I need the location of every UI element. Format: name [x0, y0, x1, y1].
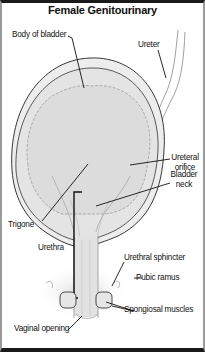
label-ureteral-orifice-line1: Ureteral: [170, 153, 200, 163]
label-spongiosal-muscles: Spongiosal muscles: [124, 305, 193, 315]
label-ureter: Ureter: [138, 40, 160, 50]
label-vaginal-opening: Vaginal opening: [14, 324, 69, 334]
label-urethra: Urethra: [38, 243, 64, 253]
label-bladder-neck-line1: Bladder: [169, 170, 199, 180]
urethra-tube: [74, 236, 98, 318]
spongiosal-muscle-left: [60, 292, 76, 308]
label-trigone: Trigone: [8, 220, 34, 230]
label-body-of-bladder: Body of bladder: [12, 30, 66, 40]
spongiosal-muscle-right: [96, 292, 112, 308]
ureter-tube: [158, 30, 185, 120]
label-urethral-sphincter: Urethral sphincter: [124, 253, 185, 263]
label-bladder-neck-line2: neck: [169, 180, 199, 190]
label-bladder-neck: Bladder neck: [169, 170, 199, 189]
bladder-wall: [12, 58, 165, 246]
label-pubic-ramus: Pubic ramus: [136, 273, 179, 283]
